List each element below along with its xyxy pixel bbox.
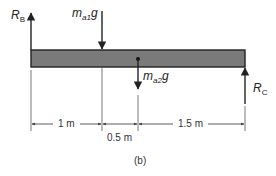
ma1g-label: ma1g [72,7,98,22]
ma2g-label: ma2g [143,70,169,85]
ma1g-symbol: m [72,6,82,20]
rb-symbol: R [11,8,20,22]
rc-subscript: C [262,88,268,97]
ma2g-symbol: m [143,69,153,83]
ma2g-subscript: a2 [153,76,162,85]
dim-label-1m: 1 m [58,119,75,129]
ma1g-suffix: g [91,6,98,20]
rc-symbol: R [253,81,262,95]
dim-label-05m: 0.5 m [107,133,132,143]
dim-label-15m: 1.5 m [178,119,203,129]
ma1g-subscript: a1 [82,13,91,22]
rb-subscript: B [20,15,25,24]
figure-caption: (b) [134,156,146,166]
diagram-canvas [0,0,276,176]
ma2g-suffix: g [162,69,169,83]
rc-label: RC [253,82,267,97]
rb-label: RB [11,9,25,24]
